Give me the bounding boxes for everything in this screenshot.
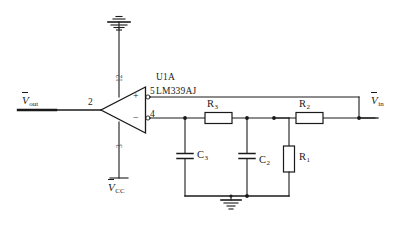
label-resistor-r2: R2: [299, 99, 310, 110]
label-noninverting-sign: +: [133, 91, 139, 101]
label-vcc-sub: CC: [115, 187, 124, 195]
label-r3-sub: 3: [215, 103, 219, 111]
label-vout-sub: out: [29, 100, 38, 108]
label-resistor-r3: R3: [207, 99, 218, 110]
label-pin-12: 12: [116, 75, 124, 83]
circuit-schematic-svg: [0, 0, 402, 230]
label-vcc: VCC: [108, 182, 124, 193]
label-vcc-text: V: [108, 181, 115, 193]
label-r2-sub: 2: [307, 103, 311, 111]
label-r3-ref: R: [207, 98, 214, 109]
label-capacitor-c2: C2: [259, 155, 270, 166]
label-pin-4: 4: [150, 110, 155, 120]
label-vout: Vout: [22, 95, 38, 106]
resistor-r3-body: [205, 113, 232, 124]
label-designator-u1a: U1A: [156, 73, 175, 83]
junction-ground-c2: [245, 194, 249, 198]
resistor-r1-body: [284, 146, 295, 172]
label-part-number: LM339AJ: [156, 87, 196, 97]
label-vin: Vin: [371, 95, 383, 106]
label-inverting-sign: −: [133, 113, 139, 123]
label-c3-ref: C: [197, 149, 204, 160]
label-resistor-r1: R1: [299, 152, 310, 163]
label-vin-sub: in: [378, 100, 383, 108]
label-r1-ref: R: [299, 151, 306, 162]
label-c2-sub: 2: [267, 159, 271, 167]
schematic-canvas: Vout Vin VCC 2 5 4 12 3 + − U1A LM339AJ …: [0, 0, 402, 230]
label-c3-sub: 3: [205, 154, 209, 162]
label-r2-ref: R: [299, 98, 306, 109]
ground-symbol-bottom: [221, 196, 241, 209]
resistor-r2-body: [296, 113, 323, 124]
label-c2-ref: C: [259, 154, 266, 165]
label-pin-2: 2: [88, 98, 93, 108]
label-pin-5: 5: [150, 87, 155, 97]
label-vin-text: V: [371, 94, 378, 106]
junction-ground-center: [229, 194, 232, 197]
label-r1-sub: 1: [307, 156, 311, 164]
label-capacitor-c3: C3: [197, 150, 208, 161]
label-vout-text: V: [22, 94, 29, 106]
label-pin-3: 3: [116, 144, 124, 148]
